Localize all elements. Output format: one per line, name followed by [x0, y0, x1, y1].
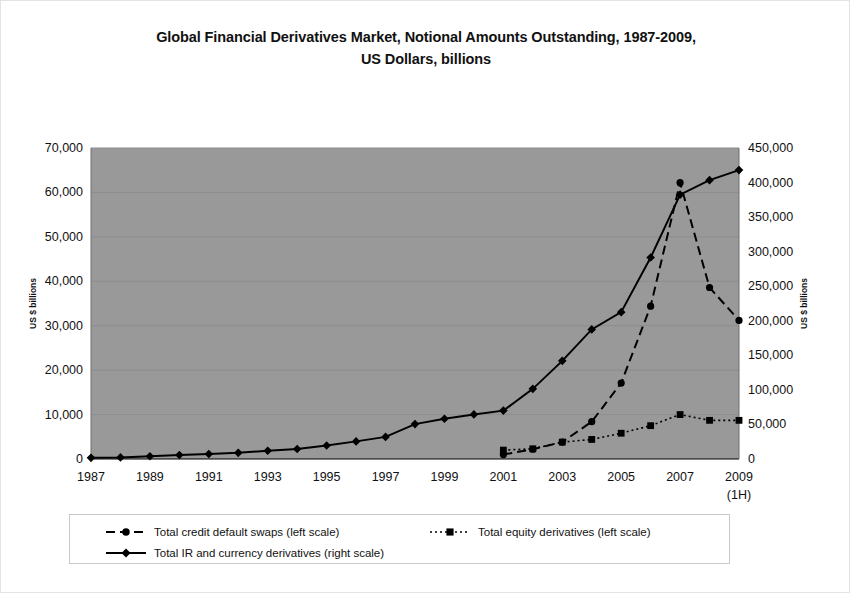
chart-title-line-1: Global Financial Derivatives Market, Not… [156, 29, 696, 45]
data-point-square-marker [446, 528, 453, 535]
data-point-circle-marker [647, 303, 654, 310]
y-axis-right-tick-label: 250,000 [748, 279, 793, 293]
x-axis-tick-label: 2009 [725, 470, 753, 484]
data-point-square-marker [529, 445, 536, 452]
y-axis-left-tick-label: 10,000 [45, 408, 83, 422]
data-point-square-marker [647, 422, 654, 429]
data-point-circle-marker [676, 179, 683, 186]
legend-item-3[interactable]: Total IR and currency derivatives (right… [106, 547, 384, 559]
data-point-square-marker [677, 411, 684, 418]
y-axis-left-tick-label: 40,000 [45, 274, 83, 288]
x-axis-tick-label: 1991 [195, 470, 223, 484]
y-axis-left-tick-label: 30,000 [45, 319, 83, 333]
data-point-circle-marker [706, 284, 713, 291]
y-axis-right-tick-label: 350,000 [748, 210, 793, 224]
chart-figure: Global Financial Derivatives Market, Not… [0, 0, 850, 593]
chart-title-line-2: US Dollars, billions [71, 49, 781, 71]
y-axis-right-tick-label: 150,000 [748, 348, 793, 362]
y-axis-left-ticks: 010,00020,00030,00040,00050,00060,00070,… [45, 141, 83, 466]
data-point-circle-marker [588, 418, 595, 425]
x-axis-ticks: 1987198919911993199519971999200120032005… [77, 470, 753, 502]
data-point-circle-marker [618, 379, 625, 386]
plot-background [91, 148, 739, 459]
y-axis-right-tick-label: 200,000 [748, 314, 793, 328]
data-point-square-marker [500, 447, 507, 454]
data-point-square-marker [706, 417, 713, 424]
data-point-diamond-marker [121, 548, 130, 557]
chart-title: Global Financial Derivatives Market, Not… [71, 27, 781, 71]
x-axis-tick-label: 1999 [431, 470, 459, 484]
data-point-square-marker [588, 436, 595, 443]
data-point-circle-marker [735, 317, 742, 324]
x-axis-tick-label: 1993 [254, 470, 282, 484]
y-axis-right-tick-label: 400,000 [748, 176, 793, 190]
y-axis-left-tick-label: 50,000 [45, 230, 83, 244]
chart-plot-area: 010,00020,00030,00040,00050,00060,00070,… [1, 1, 850, 511]
legend-label: Total credit default swaps (left scale) [154, 526, 340, 538]
plot-bg [91, 148, 739, 459]
y-axis-right-tick-label: 300,000 [748, 245, 793, 259]
x-axis-tick-label: 1987 [77, 470, 105, 484]
legend-item-1[interactable]: Total credit default swaps (left scale) [106, 526, 340, 538]
y-axis-right-tick-label: 0 [748, 452, 755, 466]
data-point-square-marker [736, 417, 743, 424]
data-point-square-marker [618, 430, 625, 437]
x-axis-tick-label: 2005 [607, 470, 635, 484]
y-axis-left-tick-label: 60,000 [45, 185, 83, 199]
legend-label: Total IR and currency derivatives (right… [154, 547, 384, 559]
x-axis-tick-sublabel: (1H) [727, 488, 751, 502]
y-axis-right-tick-label: 450,000 [748, 141, 793, 155]
y-axis-left-title: US $ billions [28, 278, 38, 329]
y-axis-right-tick-label: 50,000 [748, 417, 786, 431]
legend-label: Total equity derivatives (left scale) [478, 526, 651, 538]
x-axis-tick-label: 1995 [313, 470, 341, 484]
x-axis-tick-label: 2001 [489, 470, 517, 484]
chart-legend: Total credit default swaps (left scale)T… [69, 514, 730, 564]
y-axis-left-tick-label: 20,000 [45, 363, 83, 377]
data-point-circle-marker [122, 528, 130, 536]
x-axis-tick-label: 2003 [548, 470, 576, 484]
x-axis-tick-label: 2007 [666, 470, 694, 484]
x-axis-tick-label: 1997 [372, 470, 400, 484]
data-point-square-marker [559, 439, 566, 446]
x-axis-tick-label: 1989 [136, 470, 164, 484]
y-axis-right-tick-label: 100,000 [748, 383, 793, 397]
y-axis-left-tick-label: 70,000 [45, 141, 83, 155]
legend-item-2[interactable]: Total equity derivatives (left scale) [430, 526, 651, 538]
y-axis-right-title: US $ billions [799, 278, 809, 329]
y-axis-left-tick-label: 0 [76, 452, 83, 466]
y-axis-right-ticks: 050,000100,000150,000200,000250,000300,0… [748, 141, 793, 466]
legend-content: Total credit default swaps (left scale)T… [70, 515, 729, 563]
